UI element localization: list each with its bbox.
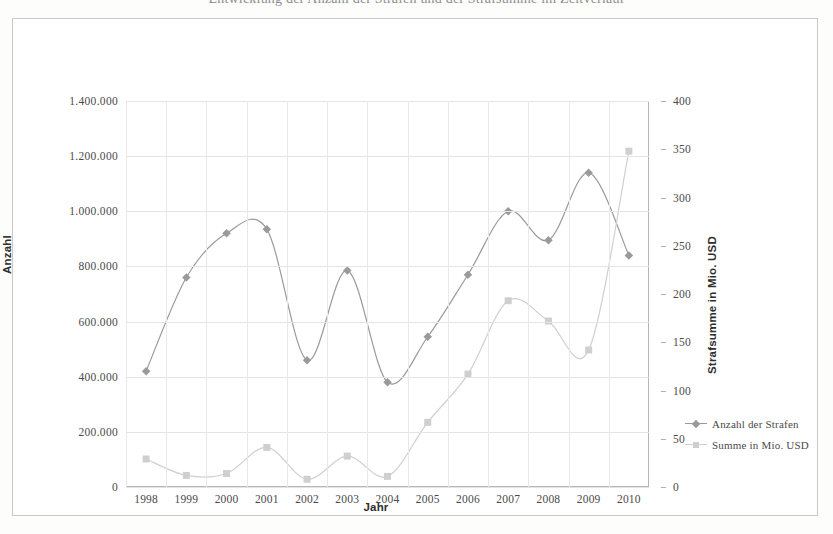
data-point-marker — [625, 251, 633, 259]
data-point-marker — [584, 168, 592, 176]
y-axis-left-tick: 800.000 — [79, 260, 118, 272]
gridline-vertical — [488, 101, 489, 487]
y-axis-right-tickmark — [661, 391, 666, 392]
series-line — [146, 173, 629, 385]
legend-label: Anzahl der Strafen — [712, 418, 799, 430]
y-axis-right-tick: 250 — [673, 240, 691, 252]
x-axis-title: Jahr — [0, 501, 779, 513]
chart-frame: 0200.000400.000600.000800.0001.000.0001.… — [12, 18, 818, 516]
y-axis-left-title: Anzahl — [1, 235, 13, 274]
data-point-marker — [505, 297, 512, 304]
square-marker-icon — [685, 440, 707, 450]
gridline-horizontal — [126, 266, 649, 267]
data-point-marker — [423, 332, 431, 340]
y-axis-left-tick: 1.400.000 — [69, 95, 118, 107]
y-axis-right-tick: 350 — [673, 143, 691, 155]
y-axis-right-tickmark — [661, 294, 666, 295]
clipped-caption: Entwicklung der Anzahl der Strafen und d… — [0, 0, 833, 7]
gridline-horizontal — [126, 487, 649, 488]
gridline-vertical — [247, 101, 248, 487]
diamond-marker-icon — [685, 419, 707, 429]
gridline-horizontal — [126, 377, 649, 378]
gridline-horizontal — [126, 322, 649, 323]
gridline-vertical — [528, 101, 529, 487]
legend-item-anzahl-der-strafen: Anzahl der Strafen — [685, 413, 820, 434]
y-axis-left-tick: 600.000 — [79, 316, 118, 328]
data-point-marker — [263, 444, 270, 451]
legend-marker — [692, 419, 700, 427]
y-axis-left-tick: 400.000 — [79, 371, 118, 383]
series-layer — [126, 101, 649, 487]
data-point-marker — [304, 476, 311, 483]
y-axis-left-labels: 0200.000400.000600.000800.0001.000.0001.… — [31, 101, 118, 487]
legend-item-summe-in-mio-usd: Summe in Mio. USD — [685, 434, 820, 455]
y-axis-right-tick: 300 — [673, 192, 691, 204]
gridline-horizontal — [126, 211, 649, 212]
y-axis-right-tick: 100 — [673, 385, 691, 397]
y-axis-right-tickmark — [661, 149, 666, 150]
gridline-vertical — [126, 101, 127, 487]
y-axis-right-tickmark — [661, 487, 666, 488]
data-point-marker — [585, 346, 592, 353]
data-point-marker — [424, 419, 431, 426]
y-axis-right-tick: 150 — [673, 336, 691, 348]
gridline-vertical — [448, 101, 449, 487]
y-axis-right-tickmark — [661, 439, 666, 440]
data-point-marker — [142, 367, 150, 375]
gridline-vertical — [166, 101, 167, 487]
y-axis-right-tick: 0 — [673, 481, 679, 493]
y-axis-left-tick: 1.200.000 — [69, 150, 118, 162]
gridline-vertical — [408, 101, 409, 487]
y-axis-right-tick: 200 — [673, 288, 691, 300]
y-axis-right-tickmark — [661, 342, 666, 343]
gridline-vertical — [206, 101, 207, 487]
data-point-marker — [384, 473, 391, 480]
gridline-horizontal — [126, 432, 649, 433]
chart-legend: Anzahl der StrafenSumme in Mio. USD — [685, 413, 820, 455]
gridline-horizontal — [126, 101, 649, 102]
data-point-marker — [263, 225, 271, 233]
legend-marker — [693, 442, 699, 448]
y-axis-left-tick: 1.000.000 — [69, 205, 118, 217]
gridline-horizontal — [126, 156, 649, 157]
data-point-marker — [344, 453, 351, 460]
series-anzahl — [142, 168, 633, 386]
data-point-marker — [182, 273, 190, 281]
data-point-marker — [143, 456, 150, 463]
y-axis-left-tick: 200.000 — [79, 426, 118, 438]
plot-area — [126, 101, 649, 487]
y-axis-left-tick: 0 — [112, 481, 118, 493]
y-axis-right-tick: 400 — [673, 95, 691, 107]
data-point-marker — [464, 270, 472, 278]
gridline-vertical — [569, 101, 570, 487]
data-point-marker — [222, 229, 230, 237]
data-point-marker — [625, 148, 632, 155]
legend-label: Summe in Mio. USD — [712, 439, 809, 451]
data-point-marker — [223, 470, 230, 477]
gridline-vertical — [287, 101, 288, 487]
y-axis-right-tickmark — [661, 198, 666, 199]
y-axis-right-title: Strafsumme in Mio. USD — [706, 236, 718, 374]
gridline-vertical — [367, 101, 368, 487]
gridline-vertical — [327, 101, 328, 487]
series-line — [146, 151, 629, 479]
gridline-vertical — [609, 101, 610, 487]
y-axis-right-tickmark — [661, 246, 666, 247]
y-axis-right-tick: 50 — [673, 433, 685, 445]
y-axis-right-tickmark — [661, 101, 666, 102]
data-point-marker — [183, 472, 190, 479]
